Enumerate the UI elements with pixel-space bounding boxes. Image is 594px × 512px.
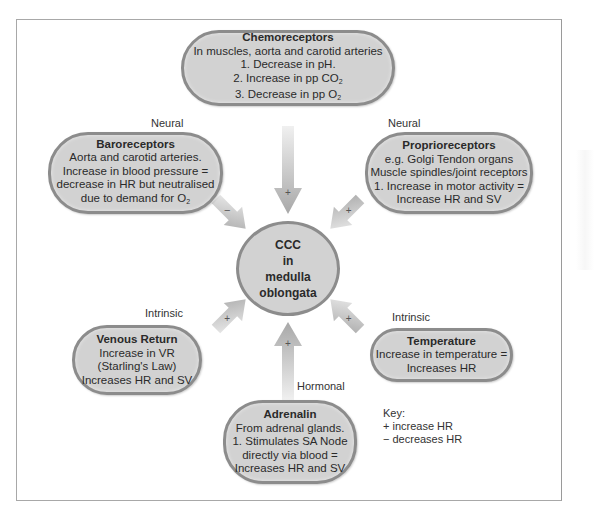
svg-text:−: − xyxy=(224,204,230,216)
svg-text:+: + xyxy=(224,313,230,324)
arrow-chemoreceptors: + xyxy=(274,126,302,214)
node-line: Increases HR and SV xyxy=(226,462,354,476)
node-line: Increase in blood pressure = xyxy=(51,165,220,179)
node-title: Chemoreceptors xyxy=(184,31,392,45)
label-neural-right: Neural xyxy=(388,117,420,129)
legend-title: Key: xyxy=(383,407,462,420)
node-title: Adrenalin xyxy=(226,408,354,422)
node-line: 1. Stimulates SA Node xyxy=(226,435,354,449)
arrow-proprioreceptors: + xyxy=(321,190,369,238)
node-chemoreceptors: Chemoreceptors In muscles, aorta and car… xyxy=(181,30,395,106)
node-line: 3. Decrease in pp O2 xyxy=(184,88,392,105)
node-line: 2. Increase in pp CO2 xyxy=(184,72,392,89)
node-line: Aorta and carotid arteries. xyxy=(51,151,220,165)
node-title: Proprioreceptors xyxy=(368,139,530,153)
node-title: Baroreceptors xyxy=(51,138,220,152)
node-title: Venous Return xyxy=(75,333,199,347)
node-line: Increase in VR xyxy=(75,347,199,361)
legend-item-increase: + increase HR xyxy=(383,420,462,433)
label-intrinsic-right: Intrinsic xyxy=(392,311,430,323)
node-line: 1. Decrease in pH. xyxy=(184,58,392,72)
node-line: From adrenal glands. xyxy=(226,422,354,436)
legend: Key: + increase HR − decreases HR xyxy=(383,407,462,446)
node-line: due to demand for O2 xyxy=(51,192,220,209)
node-ccc-medulla-oblongata: CCC in medulla oblongata xyxy=(236,221,340,316)
center-line: CCC xyxy=(239,237,337,253)
label-neural-left: Neural xyxy=(151,117,183,129)
node-line: Increase HR and SV xyxy=(368,193,530,207)
label-hormonal: Hormonal xyxy=(297,380,345,392)
node-line: decrease in HR but neutralised xyxy=(51,178,220,192)
node-adrenalin: Adrenalin From adrenal glands. 1. Stimul… xyxy=(223,400,357,484)
center-line: medulla xyxy=(239,269,337,285)
node-line: directly via blood = xyxy=(226,449,354,463)
node-line: In muscles, aorta and carotid arteries xyxy=(184,45,392,59)
svg-text:+: + xyxy=(285,338,291,349)
svg-text:+: + xyxy=(346,313,352,324)
node-line: (Starling's Law) xyxy=(75,360,199,374)
node-line: Increases HR and SV xyxy=(75,374,199,388)
node-line: Muscle spindles/joint receptors xyxy=(368,166,530,180)
node-line: 1. Increase in motor activity = xyxy=(368,180,530,194)
center-line: oblongata xyxy=(239,285,337,301)
arrow-sign: + xyxy=(285,187,291,198)
node-title: Temperature xyxy=(373,335,510,349)
svg-text:+: + xyxy=(346,205,352,216)
node-line: e.g. Golgi Tendon organs xyxy=(368,153,530,167)
center-line: in xyxy=(239,253,337,269)
node-temperature: Temperature Increase in temperature = In… xyxy=(370,328,513,382)
label-intrinsic-left: Intrinsic xyxy=(145,307,183,319)
node-proprioreceptors: Proprioreceptors e.g. Golgi Tendon organ… xyxy=(365,132,533,214)
legend-item-decrease: − decreases HR xyxy=(383,433,462,446)
node-line: Increase in temperature = xyxy=(373,348,510,362)
node-baroreceptors: Baroreceptors Aorta and carotid arteries… xyxy=(48,132,223,214)
node-venous-return: Venous Return Increase in VR (Starling's… xyxy=(72,325,202,395)
node-line: Increases HR xyxy=(373,362,510,376)
